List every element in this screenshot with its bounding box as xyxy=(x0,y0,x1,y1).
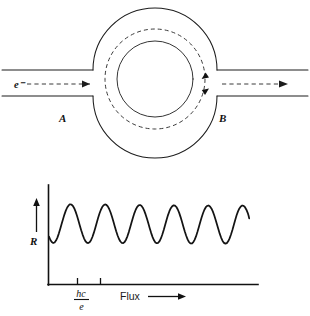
electron-path-circle xyxy=(105,29,205,129)
figure-root: e⁻ A B R hc e Flu xyxy=(0,0,310,316)
y-axis-label-R: R xyxy=(29,235,37,247)
electron-incoming-arrowhead xyxy=(82,81,90,88)
electron-label: e⁻ xyxy=(14,79,26,90)
flux-quantum-denominator: e xyxy=(79,301,84,312)
y-axis-arrow-head xyxy=(33,198,40,206)
ring-circulation-arrowhead-upper xyxy=(202,73,209,80)
resistance-oscillation-curve xyxy=(49,204,249,243)
x-tick-label-flux-quantum: hc e xyxy=(74,288,89,312)
flux-quantum-numerator: hc xyxy=(76,288,86,299)
electron-outgoing-arrowhead xyxy=(279,80,288,87)
ring-outer-upper-arc xyxy=(93,8,217,70)
x-axis-arrow-head xyxy=(178,293,186,300)
ring-interferometer-diagram: e⁻ A B xyxy=(2,8,308,158)
physics-figure-svg: e⁻ A B R hc e Flu xyxy=(0,0,310,316)
resistance-flux-chart: R hc e Flux xyxy=(29,185,258,312)
arm-label-a: A xyxy=(58,112,66,124)
ring-outer-lower-arc xyxy=(93,96,217,158)
x-axis-label-flux: Flux xyxy=(120,290,141,302)
arm-label-b: B xyxy=(218,112,226,124)
ring-inner-circle xyxy=(117,41,193,117)
